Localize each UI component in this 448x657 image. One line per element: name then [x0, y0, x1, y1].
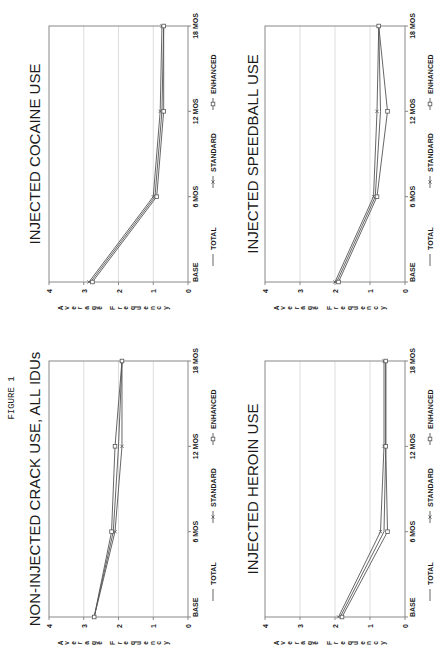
- x-tick-label: 6 MOS: [192, 185, 199, 207]
- marker-enhanced: [386, 110, 390, 114]
- series-line-total: [337, 26, 381, 282]
- y-tick-label: 2: [116, 289, 123, 293]
- marker-enhanced: [340, 615, 344, 619]
- legend-label: ENHANCED: [210, 389, 217, 429]
- series-line-enhanced: [94, 361, 122, 617]
- marker-enhanced: [384, 359, 388, 363]
- y-tick-label: 0: [185, 289, 192, 293]
- y-tick-label: 1: [150, 624, 157, 628]
- y-axis-label-char: y: [162, 641, 170, 645]
- y-tick-label: 0: [402, 289, 409, 293]
- series-line-total: [91, 26, 164, 282]
- x-tick-label: 18 MOS: [192, 13, 199, 39]
- legend-label: TOTAL: [210, 227, 217, 250]
- y-tick-label: 4: [46, 289, 53, 293]
- y-tick-label: 4: [262, 624, 269, 628]
- series-line-enhanced: [339, 26, 388, 282]
- y-axis-label-char: e: [96, 641, 103, 645]
- legend-label: STANDARD: [210, 133, 217, 172]
- y-tick-label: 0: [402, 624, 409, 628]
- series-line-enhanced: [342, 361, 388, 617]
- x-tick-label: BASE: [192, 597, 199, 617]
- chart-crack: 01234AverageFrequencyBASE6 MOS12 MOS18 M…: [26, 348, 217, 646]
- y-tick-label: 4: [46, 624, 53, 628]
- marker-enhanced: [386, 530, 390, 534]
- marker-enhanced: [162, 110, 166, 114]
- legend: TOTALSTANDARDENHANCED: [210, 54, 217, 266]
- figure-label-text: FIGURE 1: [7, 376, 17, 419]
- marker-enhanced: [91, 280, 95, 284]
- legend-label: TOTAL: [427, 227, 434, 250]
- x-tick-label: 12 MOS: [409, 433, 416, 459]
- y-tick-label: 0: [185, 624, 192, 628]
- y-tick-label: 1: [150, 289, 157, 293]
- x-tick-label: 12 MOS: [192, 433, 199, 459]
- series-line-standard: [339, 361, 385, 617]
- x-tick-label: 6 MOS: [409, 185, 416, 207]
- marker-enhanced: [384, 445, 388, 449]
- x-tick-label: 12 MOS: [409, 98, 416, 124]
- y-tick-label: 3: [81, 624, 88, 628]
- legend-label: TOTAL: [210, 562, 217, 585]
- y-tick-label: 2: [116, 624, 123, 628]
- chart-title: INJECTED COCAINE USE: [26, 64, 43, 245]
- legend-marker-enhanced: [211, 102, 215, 106]
- marker-enhanced: [113, 445, 117, 449]
- y-tick-label: 2: [332, 624, 339, 628]
- x-tick-label: 6 MOS: [192, 520, 199, 542]
- x-tick-label: BASE: [192, 262, 199, 282]
- y-tick-label: 4: [262, 289, 269, 293]
- chart-title: INJECTED SPEEDBALL USE: [244, 54, 261, 254]
- legend-label: STANDARD: [427, 133, 434, 172]
- legend-marker-enhanced: [428, 437, 432, 441]
- y-axis-label-char: y: [162, 306, 170, 310]
- marker-enhanced: [162, 24, 166, 28]
- legend-marker-enhanced: [428, 102, 432, 106]
- marker-enhanced: [377, 24, 381, 28]
- y-tick-label: 3: [297, 289, 304, 293]
- series-line-standard: [94, 361, 122, 617]
- x-tick-label: BASE: [409, 262, 416, 282]
- x-tick-label: 18 MOS: [409, 348, 416, 374]
- y-tick-label: 2: [332, 289, 339, 293]
- chart-title: INJECTED HEROIN USE: [244, 404, 261, 575]
- marker-enhanced: [120, 359, 124, 363]
- legend: TOTALSTANDARDENHANCED: [427, 54, 434, 266]
- figure-page: FIGURE 101234AverageFrequencyBASE6 MOS12…: [0, 0, 448, 657]
- series-line-standard: [335, 26, 379, 282]
- figure-canvas: FIGURE 101234AverageFrequencyBASE6 MOS12…: [0, 0, 448, 657]
- y-tick-label: 1: [367, 624, 374, 628]
- legend-label: ENHANCED: [427, 54, 434, 94]
- x-tick-label: 18 MOS: [192, 348, 199, 374]
- series-line-total: [340, 361, 386, 617]
- marker-enhanced: [375, 195, 379, 199]
- y-axis-label-char: y: [379, 641, 387, 645]
- marker-enhanced: [92, 615, 96, 619]
- marker-enhanced: [155, 195, 159, 199]
- series-line-standard: [89, 26, 162, 282]
- legend-label: STANDARD: [210, 468, 217, 507]
- chart-cocaine: 01234AverageFrequencyBASE6 MOS12 MOS18 M…: [26, 13, 217, 311]
- x-tick-label: BASE: [409, 597, 416, 617]
- x-tick-label: 12 MOS: [192, 98, 199, 124]
- chart-title: NON-INJECTED CRACK USE, ALL IDUs: [26, 352, 43, 627]
- legend: TOTALSTANDARDENHANCED: [427, 389, 434, 601]
- x-tick-label: 18 MOS: [409, 13, 416, 39]
- marker-enhanced: [337, 280, 341, 284]
- y-tick-label: 1: [367, 289, 374, 293]
- marker-enhanced: [110, 530, 114, 534]
- chart-speedball: 01234AverageFrequencyBASE6 MOS12 MOS18 M…: [244, 13, 434, 311]
- chart-heroin: 01234AverageFrequencyBASE6 MOS12 MOS18 M…: [244, 348, 434, 646]
- legend-label: ENHANCED: [427, 389, 434, 429]
- legend-label: STANDARD: [427, 468, 434, 507]
- y-axis-label-char: y: [379, 306, 387, 310]
- y-tick-label: 3: [81, 289, 88, 293]
- legend: TOTALSTANDARDENHANCED: [210, 389, 217, 601]
- y-axis-label-char: e: [96, 306, 103, 310]
- series-line-total: [94, 361, 122, 617]
- y-axis-label-char: e: [312, 306, 319, 310]
- y-tick-label: 3: [297, 624, 304, 628]
- x-tick-label: 6 MOS: [409, 520, 416, 542]
- y-axis-label-char: e: [312, 641, 319, 645]
- legend-label: TOTAL: [427, 562, 434, 585]
